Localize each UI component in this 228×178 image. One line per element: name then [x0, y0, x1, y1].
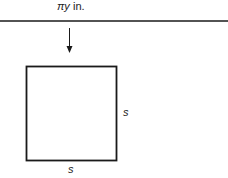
square — [27, 67, 117, 161]
arrow-head-icon — [67, 46, 73, 53]
diagram-canvas — [0, 0, 228, 178]
square-bottom-side-label: s — [68, 163, 74, 175]
top-label-variable: πy — [57, 0, 70, 12]
top-label-unit: in. — [70, 0, 85, 12]
top-label: πy in. — [57, 0, 85, 12]
square-right-side-label: s — [123, 106, 129, 118]
